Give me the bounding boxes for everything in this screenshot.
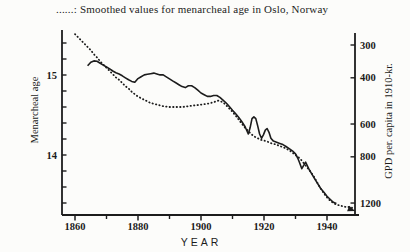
right-axis-tick-label: 300	[360, 40, 376, 51]
figure: ......: Smoothed values for menarcheal a…	[0, 0, 410, 252]
menarcheal-age-dotted-curve	[75, 34, 352, 208]
x-axis-title: YEAR	[170, 236, 232, 248]
right-axis-title: GPD per. capita in 1910-kr.	[383, 46, 397, 196]
axis-lines	[62, 30, 359, 215]
right-axis-tick-label: 400	[360, 72, 376, 83]
axis-tick-labels: 1514300400600800120018601880190019201940	[47, 40, 382, 232]
x-axis-tick-label: 1900	[191, 221, 212, 232]
left-axis-title: Menarcheal age	[29, 55, 43, 165]
x-axis-tick-label: 1920	[254, 221, 275, 232]
right-axis-tick-label: 1200	[360, 198, 381, 209]
figure-caption: ......: Smoothed values for menarcheal a…	[56, 3, 328, 15]
left-axis-tick-label: 15	[47, 70, 58, 81]
gdp-per-capita-solid-curve	[88, 61, 337, 204]
right-axis-tick-label: 800	[360, 151, 376, 162]
left-axis-tick-label: 14	[47, 150, 58, 161]
x-axis-tick-label: 1940	[317, 221, 338, 232]
x-axis-tick-label: 1880	[128, 221, 149, 232]
x-axis-tick-label: 1860	[65, 221, 86, 232]
axis-ticks	[62, 43, 355, 221]
plot-area: 1514300400600800120018601880190019201940	[0, 0, 410, 252]
right-axis-tick-label: 600	[360, 119, 376, 130]
